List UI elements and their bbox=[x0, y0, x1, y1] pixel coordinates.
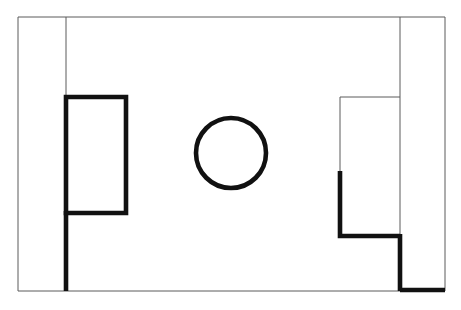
paper-background bbox=[0, 0, 461, 310]
line-drawing-svg bbox=[0, 0, 461, 310]
drawing-canvas bbox=[0, 0, 461, 310]
